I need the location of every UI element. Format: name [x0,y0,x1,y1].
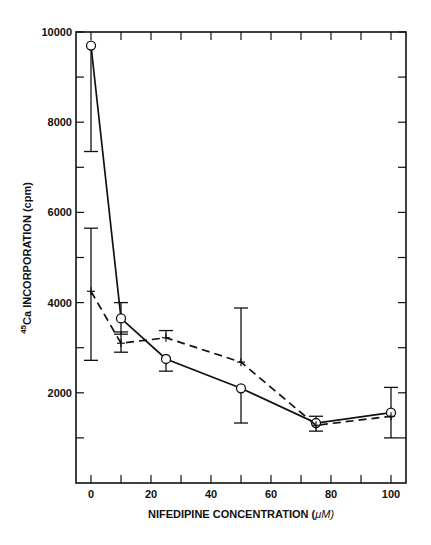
circle-marker [117,314,126,323]
circle-marker [162,354,171,363]
chart: 200040006000800010000 020406080100 NIFED… [0,0,431,545]
series-dashed-crosses [84,228,395,431]
y-tick-label: 8000 [48,116,72,128]
y-tick-label: 6000 [48,206,72,218]
series-line [91,46,391,423]
x-axis-label: NIFEDIPINE CONCENTRATION (μM) [148,508,334,520]
y-tick-label: 10000 [41,26,72,38]
x-tick-label: 0 [88,488,94,500]
circle-marker [87,41,96,50]
data-series [84,41,398,438]
y-tick-label: 4000 [48,297,72,309]
circle-marker [237,384,246,393]
x-tick-label: 40 [205,488,217,500]
y-axis-label: 45Ca INCORPORATION (cpm) [19,182,33,334]
series-solid-circles [84,41,398,438]
x-tick-label: 80 [325,488,337,500]
x-tick-label: 20 [145,488,157,500]
x-axis-ticks: 020406080100 [88,32,400,500]
y-tick-label: 2000 [48,387,72,399]
x-tick-label: 100 [382,488,400,500]
x-tick-label: 60 [265,488,277,500]
